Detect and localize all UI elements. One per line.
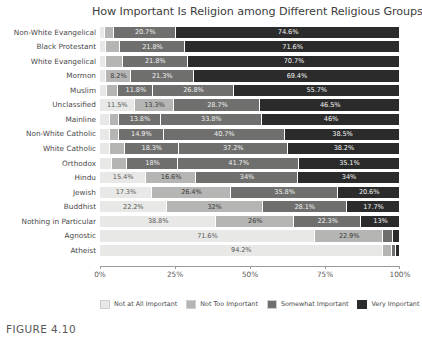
bar-value-label: 17.7%	[363, 204, 383, 211]
legend-label: Not Too Important	[200, 301, 258, 307]
bar-segment: 71.6%	[185, 41, 400, 52]
bar-value-label: 71.6%	[282, 44, 302, 51]
stacked-bar: 21.8%71.6%	[100, 41, 400, 52]
bar-segment: 33.8%	[161, 114, 262, 125]
bar-value-label: 38.8%	[148, 218, 168, 225]
segment-divider	[399, 27, 400, 38]
bar-value-label: 20.7%	[135, 29, 155, 36]
x-axis-tick	[250, 266, 251, 269]
category-label: Black Protestant	[0, 43, 100, 50]
bar-value-label: 21.3%	[152, 73, 172, 80]
category-label: Non-White Evangelical	[0, 29, 100, 36]
bar-segment: 22.9%	[315, 230, 384, 241]
segment-divider	[399, 85, 400, 96]
chart-row: Black Protestant21.8%71.6%	[0, 40, 422, 55]
bar-segment: 34%	[196, 172, 298, 183]
chart-title: How Important Is Religion among Differen…	[92, 5, 422, 18]
bar-value-label: 22.3%	[317, 218, 337, 225]
legend-item[interactable]: Very Important	[357, 300, 419, 309]
bar-value-label: 11.8%	[126, 87, 146, 94]
chart-legend: Not at All ImportantNot Too ImportantSom…	[100, 297, 410, 311]
bar-value-label: 71.6%	[197, 233, 217, 240]
category-label: White Catholic	[0, 145, 100, 152]
chart-row: White Evangelical21.8%70.7%	[0, 54, 422, 69]
x-axis-tick	[399, 266, 400, 269]
bar-segment: 16.6%	[146, 172, 196, 183]
x-axis-tick	[325, 266, 326, 269]
bar-value-label: 35.1%	[339, 160, 359, 167]
bar-segment	[100, 85, 107, 96]
bar-value-label: 33.8%	[201, 116, 221, 123]
segment-divider	[399, 187, 400, 198]
stacked-bar: 15.4%16.6%34%34%	[100, 172, 400, 183]
bar-segment: 94.2%	[100, 245, 383, 256]
bar-value-label: 20.6%	[359, 189, 379, 196]
bar-segment: 34%	[298, 172, 400, 183]
bar-segment: 17.7%	[347, 201, 400, 212]
chart-row: Hindu15.4%16.6%34%34%	[0, 170, 422, 185]
bar-segment: 38.8%	[100, 216, 216, 227]
chart-row: Mainline13.8%33.8%46%	[0, 112, 422, 127]
chart-row: White Catholic18.3%37.2%38.2%	[0, 141, 422, 156]
category-label: Jewish	[0, 189, 100, 196]
bar-segment	[393, 230, 400, 241]
category-label: Non-White Catholic	[0, 130, 100, 137]
category-label: Agnostic	[0, 232, 100, 239]
segment-divider	[399, 41, 400, 52]
bar-segment: 13.3%	[135, 99, 175, 110]
figure-container: How Important Is Religion among Differen…	[0, 0, 422, 344]
legend-item[interactable]: Not Too Important	[186, 300, 258, 309]
category-label: Buddhist	[0, 203, 100, 210]
chart-row: Non-White Evangelical20.7%74.6%	[0, 25, 422, 40]
bar-segment: 20.7%	[114, 27, 176, 38]
bar-segment: 32%	[167, 201, 263, 212]
x-axis-tick	[175, 266, 176, 269]
bar-value-label: 94.2%	[231, 247, 251, 254]
bar-segment: 69.4%	[194, 70, 400, 81]
x-axis-tick-label: 0%	[94, 270, 106, 279]
segment-divider	[399, 114, 400, 125]
category-label: White Evangelical	[0, 58, 100, 65]
bar-value-label: 21.8%	[145, 58, 165, 65]
bar-value-label: 15.4%	[113, 174, 133, 181]
bar-value-label: 21.8%	[142, 44, 162, 51]
bar-segment: 35.1%	[299, 158, 400, 169]
x-axis-tick-label: 75%	[317, 270, 333, 279]
legend-swatch-icon	[357, 300, 367, 309]
bar-value-label: 34%	[240, 174, 254, 181]
stacked-bar: 11.5%13.3%28.7%46.5%	[100, 99, 400, 110]
chart-row: Unclassified11.5%13.3%28.7%46.5%	[0, 98, 422, 113]
stacked-bar: 71.6%22.9%	[100, 230, 400, 241]
bar-value-label: 13.3%	[144, 102, 164, 109]
bar-value-label: 22.9%	[339, 233, 359, 240]
bar-segment	[105, 27, 115, 38]
x-axis-tick-label: 100%	[390, 270, 411, 279]
legend-item[interactable]: Not at All Important	[100, 300, 177, 309]
category-label: Unclassified	[0, 101, 100, 108]
category-label: Mormon	[0, 72, 100, 79]
bar-segment: 40.7%	[164, 129, 285, 140]
bar-segment: 21.8%	[123, 56, 188, 67]
chart-plot-area: Non-White Evangelical20.7%74.6%Black Pro…	[0, 25, 422, 268]
legend-item[interactable]: Somewhat Important	[267, 300, 349, 309]
bar-segment: 26.4%	[152, 187, 231, 198]
legend-label: Not at All Important	[114, 301, 177, 307]
segment-divider	[399, 70, 400, 81]
bar-segment: 21.8%	[120, 41, 185, 52]
bar-segment: 22.3%	[294, 216, 361, 227]
segment-divider	[399, 143, 400, 154]
segment-divider	[399, 201, 400, 212]
bar-segment: 11.8%	[118, 85, 153, 96]
bar-segment: 70.7%	[188, 56, 400, 67]
x-axis-tick	[100, 266, 101, 269]
chart-row: Muslim11.8%26.8%55.7%	[0, 83, 422, 98]
bar-segment	[112, 158, 127, 169]
bar-segment: 26.8%	[153, 85, 233, 96]
bar-value-label: 37.2%	[223, 145, 243, 152]
bar-segment: 41.7%	[178, 158, 298, 169]
stacked-bar: 11.8%26.8%55.7%	[100, 85, 400, 96]
bar-value-label: 13.8%	[130, 116, 150, 123]
bar-segment: 17.3%	[100, 187, 152, 198]
bar-segment: 28.7%	[174, 99, 260, 110]
legend-label: Somewhat Important	[281, 301, 349, 307]
